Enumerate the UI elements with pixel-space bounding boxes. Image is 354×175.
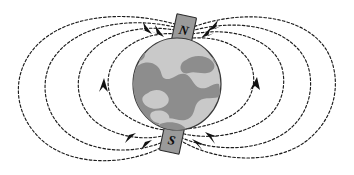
magnetic-field-diagram: N S — [0, 0, 354, 175]
field-arrow-mid-right — [250, 77, 260, 90]
diagram-canvas: N S — [0, 0, 354, 175]
field-arrow-bottom-right-inner — [205, 132, 218, 144]
field-arrow-mid-left — [99, 78, 108, 92]
continent-east-sliver — [213, 51, 225, 64]
field-arrow-bottom-left-inner — [122, 133, 136, 143]
